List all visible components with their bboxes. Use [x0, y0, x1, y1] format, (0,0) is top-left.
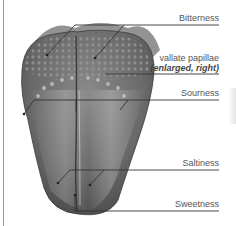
- label-bitterness: Bitterness: [179, 13, 219, 23]
- label-vallate-papillae: vallate papillae: [159, 53, 219, 63]
- label-saltiness: Saltiness: [182, 158, 219, 168]
- tongue-illustration: [0, 0, 236, 226]
- label-vallate-note: (enlarged, right): [150, 63, 219, 73]
- label-sweetness: Sweetness: [175, 199, 219, 209]
- label-sourness: Sourness: [181, 88, 219, 98]
- papillae-region: [24, 34, 151, 80]
